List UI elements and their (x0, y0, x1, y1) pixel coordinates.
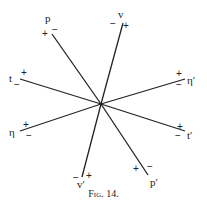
sign-plus: + (86, 171, 92, 181)
sign-minus: − (14, 80, 20, 90)
sign-minus: − (147, 162, 153, 172)
axis-v-prime (82, 104, 101, 177)
label-eta: η (9, 127, 15, 138)
sign-plus: + (176, 69, 182, 79)
sign-plus: + (23, 120, 29, 130)
label-t-prime: t′ (187, 130, 192, 141)
label-eta-prime: η′ (187, 75, 195, 86)
sign-minus: − (176, 80, 182, 90)
sign-plus: + (123, 21, 129, 31)
label-p: p (45, 13, 51, 24)
label-t: t (9, 73, 12, 84)
figure-caption: Fig. 14. (0, 188, 207, 199)
axis-eta-prime (101, 79, 185, 104)
sign-minus: − (175, 131, 181, 141)
axis-t-prime (101, 104, 185, 131)
axes-diagram (0, 0, 207, 209)
axis-v (101, 23, 123, 104)
label-p-prime: p′ (150, 177, 158, 188)
sign-minus: − (73, 173, 79, 183)
axis-t (20, 79, 101, 104)
sign-minus: − (110, 19, 116, 29)
axis-p (52, 34, 101, 104)
axis-p-prime (101, 104, 148, 175)
label-v: v (118, 9, 124, 20)
sign-minus: − (26, 131, 32, 141)
sign-minus: − (52, 25, 58, 35)
sign-plus: + (42, 29, 48, 39)
sign-plus: + (133, 164, 139, 174)
axis-eta (20, 104, 101, 131)
sign-plus: + (21, 68, 27, 78)
